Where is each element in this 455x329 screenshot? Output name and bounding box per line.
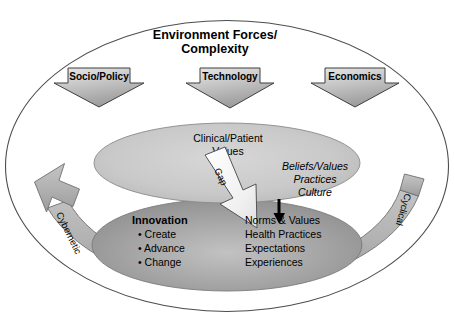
lower-outcomes-ellipse [92, 199, 362, 291]
innovation-bullet-1: • Advance [138, 242, 185, 254]
belief-item-1: Practices [293, 173, 337, 185]
innovation-bullet-2: • Change [138, 256, 182, 268]
conceptual-model-diagram: Cybernetic Cyclical Environment Forces/ … [0, 0, 455, 329]
innovation-bullet-0: • Create [138, 228, 176, 240]
force-arrow-label: Technology [202, 71, 258, 82]
diagram-canvas: Cybernetic Cyclical Environment Forces/ … [0, 0, 455, 329]
figure-title-line2: Complexity [181, 42, 248, 56]
belief-item-2: Culture [298, 186, 332, 198]
outcome-item-3: Experiences [245, 256, 303, 268]
outcome-item-2: Expectations [245, 242, 305, 254]
outcome-item-0: Norms & Values [245, 214, 320, 226]
figure-title-line1: Environment Forces/ [153, 28, 278, 42]
innovation-heading: Innovation [132, 214, 188, 226]
force-arrow-label: Socio/Policy [69, 71, 129, 82]
outcome-item-1: Health Practices [245, 228, 321, 240]
belief-item-0: Beliefs/Values [282, 160, 349, 172]
clinical-values-line1: Clinical/Patient [193, 132, 263, 144]
force-arrow-label: Economics [328, 71, 382, 82]
